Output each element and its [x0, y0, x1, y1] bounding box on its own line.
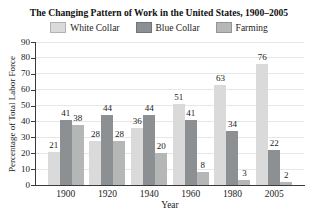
- plot-area: 214138284428364420514186334376222: [36, 42, 304, 185]
- bar-value-label: 41: [179, 109, 203, 118]
- legend-label: White Collar: [70, 23, 119, 33]
- legend-swatch: [136, 22, 152, 33]
- chart-title: The Changing Pattern of Work in the Unit…: [0, 7, 318, 18]
- bar: [101, 115, 113, 185]
- bar-value-label: 44: [137, 104, 161, 113]
- y-tick: [31, 90, 35, 91]
- bar: [155, 153, 167, 185]
- bar: [48, 152, 60, 185]
- bar-value-label: 63: [209, 74, 233, 83]
- y-tick-label: 60: [6, 85, 30, 94]
- x-tick-label: 1900: [45, 189, 87, 199]
- y-tick: [31, 153, 35, 154]
- x-tick-label: 2005: [253, 189, 295, 199]
- y-tick-label: 80: [6, 53, 30, 62]
- y-tick-label: 30: [6, 133, 30, 142]
- legend: White CollarBlue CollarFarming: [0, 21, 318, 34]
- y-tick-label: 90: [6, 38, 30, 47]
- bar-group: 51418: [170, 42, 212, 185]
- bar: [131, 128, 143, 185]
- bar-group: 214138: [45, 42, 87, 185]
- bar-value-label: 44: [95, 104, 119, 113]
- legend-swatch: [50, 22, 66, 33]
- bar-group: 284428: [87, 42, 129, 185]
- bar-group: 76222: [253, 42, 295, 185]
- bar-group: 364420: [128, 42, 170, 185]
- y-tick-label: 70: [6, 69, 30, 78]
- y-tick: [31, 74, 35, 75]
- bar-value-label: 2: [274, 171, 298, 180]
- bar-chart-figure: The Changing Pattern of Work in the Unit…: [0, 0, 318, 212]
- legend-item: Farming: [216, 22, 268, 33]
- bar: [256, 64, 268, 185]
- x-axis-label: Year: [36, 200, 304, 210]
- x-tick-label: 1980: [212, 189, 254, 199]
- legend-label: Blue Collar: [156, 23, 200, 33]
- x-tick-label: 1960: [170, 189, 212, 199]
- y-tick: [31, 169, 35, 170]
- y-axis-label: Percentage of Total Labor Force: [7, 44, 19, 184]
- y-tick: [31, 106, 35, 107]
- y-tick-label: 20: [6, 149, 30, 158]
- bar-value-label: 51: [167, 93, 191, 102]
- bar: [185, 120, 197, 185]
- y-axis-line: [35, 42, 36, 186]
- y-tick: [31, 58, 35, 59]
- x-tick-label: 1940: [128, 189, 170, 199]
- x-axis-line: [35, 185, 305, 186]
- y-tick-label: 50: [6, 101, 30, 110]
- bar: [113, 141, 125, 185]
- y-tick-label: 0: [6, 181, 30, 190]
- bar: [214, 85, 226, 185]
- y-tick-label: 10: [6, 165, 30, 174]
- legend-item: White Collar: [50, 22, 119, 33]
- bar-value-label: 22: [262, 139, 286, 148]
- bar-group: 63343: [212, 42, 254, 185]
- bar-value-label: 76: [250, 53, 274, 62]
- x-tick-label: 1920: [87, 189, 129, 199]
- y-tick: [31, 121, 35, 122]
- bar-value-label: 34: [220, 120, 244, 129]
- legend-label: Farming: [236, 23, 268, 33]
- legend-swatch: [216, 22, 232, 33]
- legend-item: Blue Collar: [136, 22, 200, 33]
- bar: [197, 172, 209, 185]
- bar: [60, 120, 72, 185]
- bar: [72, 125, 84, 185]
- y-tick: [31, 137, 35, 138]
- y-tick: [31, 42, 35, 43]
- y-tick-label: 40: [6, 117, 30, 126]
- bar: [89, 141, 101, 185]
- y-tick: [31, 185, 35, 186]
